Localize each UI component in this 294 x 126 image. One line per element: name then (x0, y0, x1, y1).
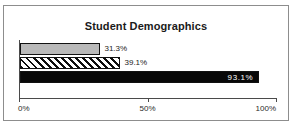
x-axis-tick-label: 100% (256, 104, 276, 114)
x-axis-tick (19, 99, 20, 102)
bar-value-label: 39.1% (120, 57, 147, 69)
bar-series-3[interactable]: 93.1% (20, 71, 259, 83)
chart-title: Student Demographics (4, 20, 288, 33)
chart-frame: Student Demographics 31.3% 39.1% 93.1% 0… (3, 5, 289, 121)
bar-series-1[interactable] (20, 43, 100, 55)
x-axis-tick-label: 50% (139, 104, 155, 114)
x-axis-tick (148, 99, 149, 102)
x-axis-tick-label: 0% (18, 104, 30, 114)
x-axis-tick (276, 99, 277, 102)
bar-series-2[interactable] (20, 57, 120, 69)
bar-value-label: 93.1% (228, 72, 254, 84)
bar-value-label: 31.3% (100, 43, 127, 55)
plot-area: 31.3% 39.1% 93.1% 0% 50% 100% (19, 40, 279, 102)
